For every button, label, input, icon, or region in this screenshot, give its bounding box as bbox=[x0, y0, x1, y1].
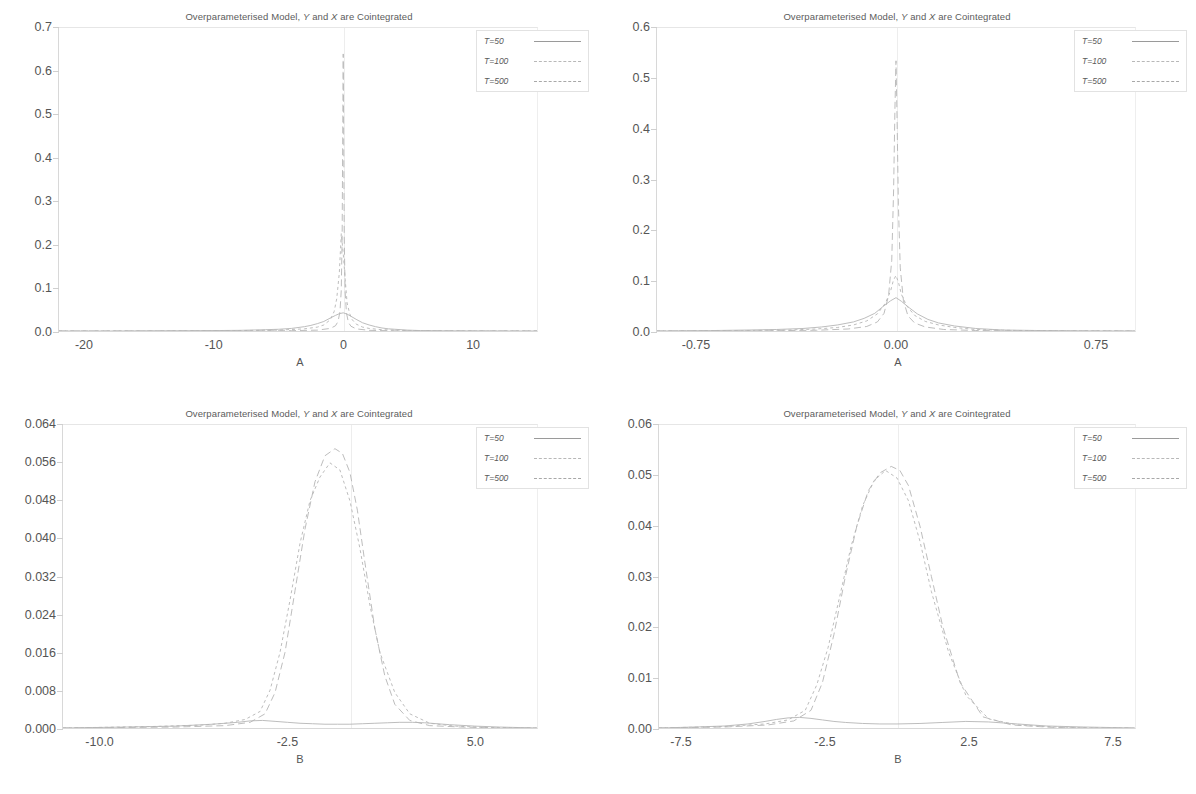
legend-line-sample-dotted bbox=[1132, 458, 1179, 459]
legend-line-sample-dotted bbox=[534, 458, 581, 459]
y-axis-tick-mark bbox=[57, 462, 63, 463]
y-axis-tick-mark bbox=[57, 500, 63, 501]
plot-frame bbox=[658, 424, 1136, 729]
y-axis-tick-mark bbox=[53, 201, 59, 202]
legend-item-T-100[interactable]: T=100 bbox=[477, 51, 588, 71]
y-axis-tick-mark bbox=[651, 180, 657, 181]
series-line-T-50 bbox=[657, 298, 1135, 331]
legend-item-label: T=50 bbox=[484, 433, 528, 443]
legend: T=50T=100T=500 bbox=[1074, 30, 1187, 92]
legend-item-T-500[interactable]: T=500 bbox=[477, 71, 588, 91]
y-axis-tick-mark bbox=[53, 71, 59, 72]
legend: T=50T=100T=500 bbox=[476, 427, 589, 489]
x-axis-tick-label: 0 bbox=[340, 338, 347, 352]
y-axis-tick-mark bbox=[653, 424, 659, 425]
y-axis-tick-mark bbox=[651, 230, 657, 231]
legend-item-T-500[interactable]: T=500 bbox=[477, 468, 588, 488]
y-axis-tick-label: 0.3 bbox=[2, 194, 52, 208]
y-axis-tick-label: 0.040 bbox=[0, 531, 56, 545]
y-axis-tick-mark bbox=[57, 424, 63, 425]
x-axis-label: B bbox=[296, 753, 303, 765]
y-axis-tick-label: 0.016 bbox=[0, 646, 56, 660]
legend-item-T-50[interactable]: T=50 bbox=[1075, 428, 1186, 448]
y-axis-tick-mark bbox=[57, 729, 63, 730]
series-line-T-50 bbox=[63, 720, 537, 728]
y-axis-tick-mark bbox=[651, 129, 657, 130]
y-axis-tick-mark bbox=[653, 475, 659, 476]
y-axis-tick-mark bbox=[653, 627, 659, 628]
legend-item-T-500[interactable]: T=500 bbox=[1075, 71, 1186, 91]
plot-title: Overparameterised Model, Y and X are Coi… bbox=[598, 408, 1196, 419]
y-axis-tick-mark bbox=[53, 332, 59, 333]
y-axis-tick-mark bbox=[653, 729, 659, 730]
legend-item-T-50[interactable]: T=50 bbox=[1075, 31, 1186, 51]
x-axis-tick-label: -20 bbox=[75, 338, 93, 352]
legend-item-T-50[interactable]: T=50 bbox=[477, 428, 588, 448]
density-curves bbox=[657, 28, 1135, 331]
legend-line-sample-dashed bbox=[1132, 81, 1179, 82]
y-axis-tick-label: 0.0 bbox=[600, 325, 650, 339]
series-line-T-100 bbox=[657, 275, 1135, 331]
x-axis-tick-label: -0.75 bbox=[682, 338, 711, 352]
plot-frame bbox=[656, 27, 1136, 332]
legend-item-label: T=50 bbox=[484, 36, 528, 46]
y-axis-tick-mark bbox=[53, 27, 59, 28]
y-axis-tick-label: 0.1 bbox=[600, 274, 650, 288]
y-axis-tick-label: 0.048 bbox=[0, 493, 56, 507]
x-axis-label: A bbox=[894, 356, 901, 368]
y-axis-tick-mark bbox=[57, 691, 63, 692]
series-line-T-100 bbox=[659, 470, 1135, 728]
x-axis-tick-label: 2.5 bbox=[960, 735, 977, 749]
series-line-T-500 bbox=[59, 54, 537, 331]
y-axis-tick-mark bbox=[53, 158, 59, 159]
x-axis-tick-label: 5.0 bbox=[467, 735, 484, 749]
legend-item-T-500[interactable]: T=500 bbox=[1075, 468, 1186, 488]
y-axis-tick-label: 0.7 bbox=[2, 20, 52, 34]
y-axis-tick-label: 0.01 bbox=[600, 671, 652, 685]
y-axis-tick-label: 0.5 bbox=[2, 107, 52, 121]
y-axis-tick-label: 0.6 bbox=[2, 64, 52, 78]
x-axis-tick-label: -10.0 bbox=[85, 735, 114, 749]
x-axis-tick-label: -7.5 bbox=[670, 735, 692, 749]
y-axis-tick-label: 0.4 bbox=[600, 122, 650, 136]
y-axis-tick-mark bbox=[653, 577, 659, 578]
y-axis-tick-label: 0.1 bbox=[2, 281, 52, 295]
legend-item-label: T=500 bbox=[1082, 473, 1126, 483]
legend-line-sample-solid bbox=[534, 41, 581, 42]
y-axis-tick-label: 0.02 bbox=[600, 620, 652, 634]
legend-item-T-100[interactable]: T=100 bbox=[1075, 51, 1186, 71]
legend-item-T-100[interactable]: T=100 bbox=[1075, 448, 1186, 468]
y-axis-tick-label: 0.2 bbox=[2, 238, 52, 252]
legend-line-sample-dashed bbox=[534, 478, 581, 479]
density-curves bbox=[659, 425, 1135, 728]
legend-item-T-50[interactable]: T=50 bbox=[477, 31, 588, 51]
y-axis-tick-mark bbox=[651, 27, 657, 28]
plot-title: Overparameterised Model, Y and X are Coi… bbox=[0, 408, 598, 419]
legend-item-label: T=100 bbox=[484, 453, 528, 463]
series-line-T-500 bbox=[63, 449, 537, 728]
y-axis-tick-mark bbox=[57, 653, 63, 654]
y-axis-tick-label: 0.000 bbox=[0, 722, 56, 736]
legend-item-label: T=500 bbox=[484, 473, 528, 483]
y-axis-tick-label: 0.2 bbox=[600, 223, 650, 237]
legend: T=50T=100T=500 bbox=[1074, 427, 1187, 489]
legend: T=50T=100T=500 bbox=[476, 30, 589, 92]
legend-item-T-100[interactable]: T=100 bbox=[477, 448, 588, 468]
legend-item-label: T=50 bbox=[1082, 36, 1126, 46]
y-axis-tick-mark bbox=[57, 538, 63, 539]
legend-item-label: T=500 bbox=[1082, 76, 1126, 86]
y-axis-tick-mark bbox=[57, 615, 63, 616]
x-axis-label: A bbox=[296, 356, 303, 368]
x-axis-tick-label: -10 bbox=[205, 338, 223, 352]
x-axis-tick-label: -2.5 bbox=[277, 735, 299, 749]
plot-frame bbox=[62, 424, 538, 729]
x-axis-label: B bbox=[894, 753, 901, 765]
series-line-T-50 bbox=[59, 313, 537, 331]
y-axis-tick-mark bbox=[653, 526, 659, 527]
y-axis-tick-mark bbox=[651, 281, 657, 282]
y-axis-tick-label: 0.6 bbox=[600, 20, 650, 34]
plot-frame bbox=[58, 27, 538, 332]
y-axis-tick-label: 0.03 bbox=[600, 570, 652, 584]
y-axis-tick-mark bbox=[653, 678, 659, 679]
y-axis-tick-label: 0.064 bbox=[0, 417, 56, 431]
